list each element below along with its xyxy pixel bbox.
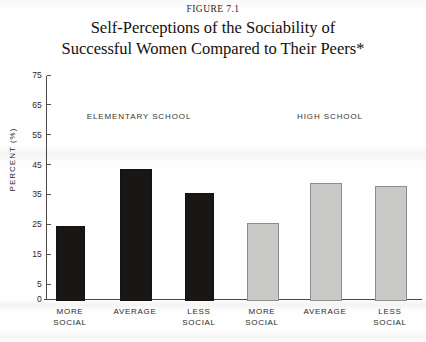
category-label-line-2: SOCIAL — [233, 317, 291, 328]
figure-page: FIGURE 7.1 Self-Perceptions of the Socia… — [0, 0, 426, 342]
bar — [120, 169, 152, 301]
x-axis-category-label: AVERAGE — [104, 306, 166, 317]
y-axis-tick-label: 65 — [20, 101, 42, 109]
x-axis-category-label: MORESOCIAL — [233, 306, 291, 328]
category-label-line-1: MORE — [233, 306, 291, 317]
figure-number: FIGURE 7.1 — [0, 4, 426, 14]
category-label-line-1: LESS — [361, 306, 419, 317]
y-axis-tick-label: 25 — [20, 220, 42, 228]
x-axis-category-label: LESSSOCIAL — [170, 306, 228, 328]
category-label-line-2: SOCIAL — [361, 317, 419, 328]
category-label-line-1: LESS — [170, 306, 228, 317]
y-axis-tick-label: 55 — [20, 131, 42, 139]
y-axis-tick — [47, 194, 51, 195]
y-axis-tick-label: 45 — [20, 161, 42, 169]
category-label-line-1: MORE — [41, 306, 99, 317]
y-axis-tick — [47, 75, 51, 76]
x-axis-category-label: LESSSOCIAL — [361, 306, 419, 328]
category-label-line-1: AVERAGE — [104, 306, 166, 317]
bar — [247, 223, 279, 301]
title-line-2: Successful Women Compared to Their Peers… — [0, 38, 426, 59]
bar — [185, 193, 214, 301]
title-line-1: Self-Perceptions of the Sociability of — [0, 17, 426, 38]
x-axis-line — [44, 299, 422, 300]
scan-artifact-upper — [0, 146, 426, 162]
y-axis-tick-label: 15 — [20, 250, 42, 258]
y-axis-tick — [47, 284, 51, 285]
y-axis-tick-label: 0 — [20, 295, 42, 303]
group-label-elementary-school: ELEMENTARY SCHOOL — [54, 112, 224, 121]
y-axis-tick — [47, 299, 51, 300]
x-axis-category-label: MORESOCIAL — [41, 306, 99, 328]
y-axis-tick — [47, 224, 51, 225]
y-axis-tick — [47, 254, 51, 255]
y-axis-tick — [47, 164, 51, 165]
scan-artifact-bottom — [0, 331, 426, 342]
bar — [310, 183, 342, 301]
y-axis-tick — [47, 104, 51, 105]
category-label-line-2: SOCIAL — [41, 317, 99, 328]
y-axis-title: PERCENT (%) — [8, 124, 17, 196]
y-axis-tick-label: 5 — [20, 280, 42, 288]
y-axis-tick — [47, 134, 51, 135]
y-axis-tick-label: 35 — [20, 190, 42, 198]
page-title: Self-Perceptions of the Sociability of S… — [0, 17, 426, 59]
bar — [56, 226, 85, 301]
y-axis-line — [46, 76, 47, 300]
bar — [375, 186, 407, 301]
category-label-line-1: AVERAGE — [294, 306, 356, 317]
category-label-line-2: SOCIAL — [170, 317, 228, 328]
y-axis-tick-label: 75 — [20, 71, 42, 79]
x-axis-category-label: AVERAGE — [294, 306, 356, 317]
group-label-high-school: HIGH SCHOOL — [245, 112, 415, 121]
